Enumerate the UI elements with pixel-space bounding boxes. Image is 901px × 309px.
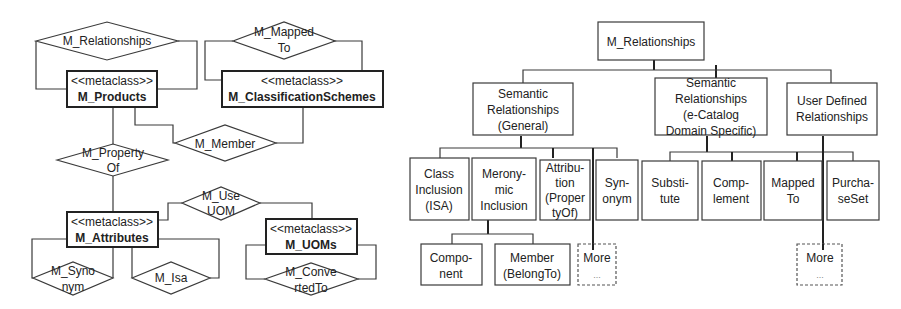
svg-text:<<metaclass>>: <<metaclass>>	[261, 74, 343, 88]
svg-text:M_Conve: M_Conve	[285, 265, 337, 279]
tree-root-m-relationships: M_Relationships	[598, 22, 704, 60]
tree-node-class-inclusion: Class Inclusion (ISA)	[410, 158, 469, 220]
svg-text:Domain Specific): Domain Specific)	[666, 124, 757, 138]
tree-node-attribution: Attribu- tion (Proper tyOf)	[540, 160, 590, 220]
svg-text:UOM: UOM	[207, 204, 235, 218]
svg-text:seSet: seSet	[838, 192, 869, 206]
metaclass-m-products: <<metaclass>> M_Products	[67, 71, 157, 107]
svg-text:(e-Catalog: (e-Catalog	[683, 108, 739, 122]
tree-node-substitute: Substi- tute	[642, 161, 698, 220]
tree-node-synonym: Syn- onym	[596, 160, 638, 220]
tree-node-member-belongto: Member (BelongTo)	[495, 244, 570, 285]
svg-text:Relationships: Relationships	[796, 110, 868, 124]
relationship-m-mapped-to: M_Mapped To	[233, 22, 335, 59]
svg-text:rtedTo: rtedTo	[294, 281, 328, 295]
svg-text:Semantic: Semantic	[498, 87, 548, 101]
tree-node-user-defined: User Defined Relationships	[787, 83, 877, 135]
svg-text:lement: lement	[713, 192, 750, 206]
svg-text:M_UOMs: M_UOMs	[285, 238, 337, 252]
svg-text:tion: tion	[555, 176, 574, 190]
svg-text:<<metaclass>>: <<metaclass>>	[71, 74, 153, 88]
svg-text:Inclusion: Inclusion	[480, 199, 527, 213]
relationship-label: M_Relationships	[63, 34, 152, 48]
svg-text:Attribu-: Attribu-	[546, 161, 585, 175]
svg-text:To: To	[787, 192, 800, 206]
metaclass-m-classification-schemes: <<metaclass>> M_ClassificationSchemes	[222, 71, 383, 107]
svg-text:M_Property: M_Property	[82, 146, 144, 160]
svg-text:nym: nym	[62, 280, 85, 294]
svg-text:<<metaclass>>: <<metaclass>>	[71, 215, 153, 229]
svg-text:M_Relationships: M_Relationships	[607, 35, 696, 49]
svg-text:<<metaclass>>: <<metaclass>>	[270, 222, 352, 236]
relationship-m-relationships: M_Relationships	[36, 22, 178, 60]
tree-node-more-general: More ...	[578, 244, 616, 285]
svg-text:Inclusion: Inclusion	[415, 183, 462, 197]
tree-node-purchase-set: Purcha- seSet	[827, 161, 879, 220]
svg-text:nent: nent	[439, 267, 463, 281]
tree-node-complement: Comp- lement	[702, 161, 761, 220]
svg-text:Relationships: Relationships	[487, 103, 559, 117]
svg-text:Comp-: Comp-	[713, 176, 749, 190]
svg-text:...: ...	[816, 270, 824, 280]
svg-text:M_ClassificationSchemes: M_ClassificationSchemes	[228, 90, 376, 104]
svg-text:tyOf): tyOf)	[552, 206, 578, 220]
svg-text:M_Isa: M_Isa	[155, 271, 188, 285]
svg-text:Syn-: Syn-	[605, 176, 630, 190]
tree-node-meronymic-inclusion: Merony- mic Inclusion	[472, 158, 536, 220]
metaclass-m-uoms: <<metaclass>> M_UOMs	[266, 219, 357, 254]
diagram-canvas: M_Relationships M_Mapped To M_Member M_P…	[0, 0, 901, 309]
svg-text:Substi-: Substi-	[651, 176, 688, 190]
svg-text:Purcha-: Purcha-	[832, 176, 874, 190]
svg-text:(ISA): (ISA)	[425, 199, 452, 213]
relationship-m-synonym: M_Syno nym	[33, 262, 113, 295]
svg-text:Member: Member	[510, 251, 554, 265]
svg-text:M_Attributes: M_Attributes	[75, 231, 149, 245]
svg-text:Relationships: Relationships	[675, 92, 747, 106]
metaclass-m-attributes: <<metaclass>> M_Attributes	[67, 212, 158, 247]
svg-text:M_Mapped: M_Mapped	[254, 25, 314, 39]
svg-text:M_Syno: M_Syno	[51, 264, 95, 278]
svg-text:tute: tute	[660, 192, 680, 206]
svg-text:M_Use: M_Use	[202, 189, 240, 203]
svg-text:(Proper: (Proper	[545, 191, 585, 205]
svg-text:Class: Class	[424, 167, 454, 181]
tree-node-semantic-ecatalog: Semantic Relationships (e-Catalog Domain…	[655, 76, 767, 138]
tree-node-mapped-to: Mapped To	[764, 161, 822, 220]
tree-node-component: Compo- nent	[421, 244, 482, 285]
svg-text:More: More	[806, 251, 834, 265]
relationship-m-property-of: M_Property Of	[57, 144, 168, 176]
relationship-m-member: M_Member	[175, 125, 276, 161]
svg-text:(General): (General)	[498, 119, 549, 133]
svg-text:(BelongTo): (BelongTo)	[503, 267, 561, 281]
tree-node-semantic-general: Semantic Relationships (General)	[473, 83, 573, 135]
svg-text:Compo-: Compo-	[430, 251, 473, 265]
relationship-m-converted-to: M_Conve rtedTo	[265, 263, 358, 295]
svg-text:onym: onym	[602, 192, 631, 206]
svg-text:To: To	[278, 41, 291, 55]
svg-text:M_Products: M_Products	[78, 90, 147, 104]
svg-text:Merony-: Merony-	[482, 167, 526, 181]
tree-node-more-user-defined: More ...	[797, 244, 842, 285]
svg-text:M_Member: M_Member	[195, 137, 256, 151]
relationship-m-isa: M_Isa	[132, 262, 210, 294]
relationship-m-use-uom: M_Use UOM	[182, 187, 260, 220]
svg-text:...: ...	[593, 270, 601, 280]
svg-text:mic: mic	[495, 183, 514, 197]
svg-text:More: More	[583, 251, 611, 265]
svg-text:User Defined: User Defined	[797, 94, 867, 108]
svg-text:Semantic: Semantic	[686, 76, 736, 90]
svg-text:Of: Of	[107, 161, 120, 175]
svg-text:Mapped: Mapped	[771, 176, 814, 190]
